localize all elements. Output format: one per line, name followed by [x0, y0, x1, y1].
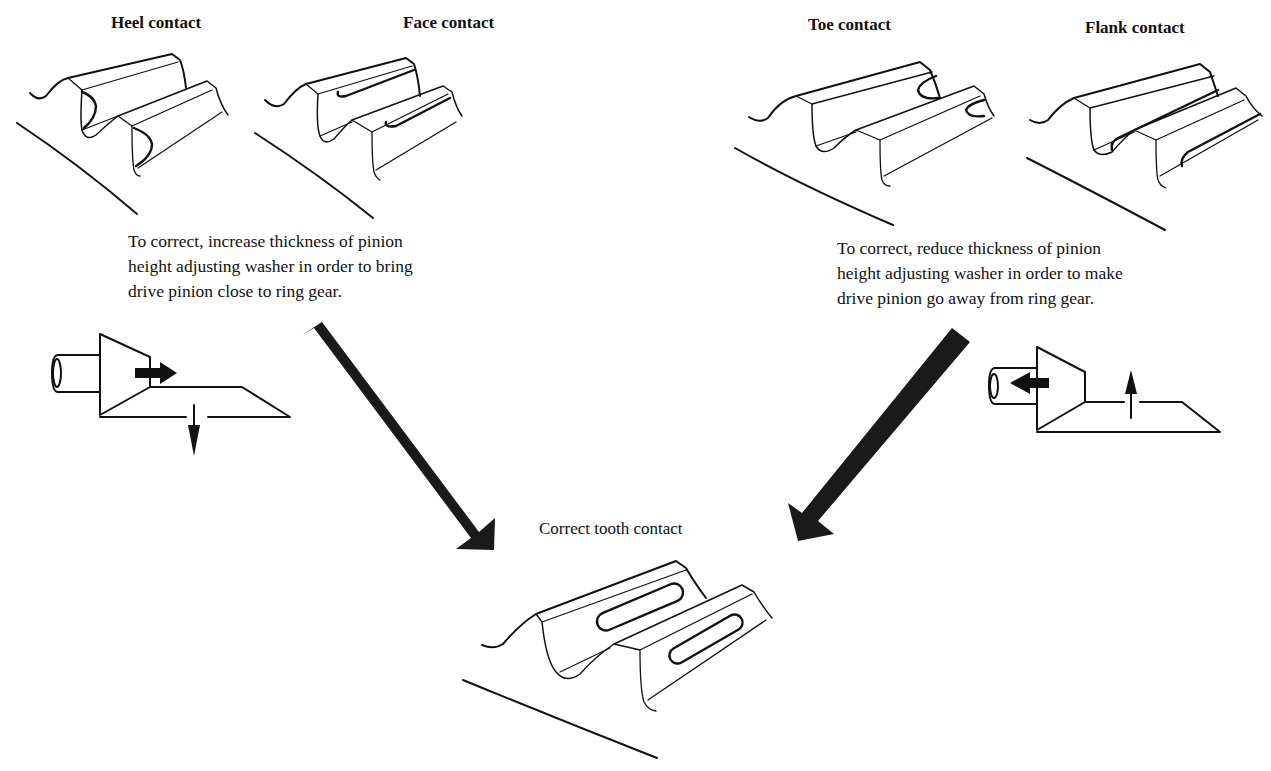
- flow-arrow-left-icon: [302, 322, 495, 550]
- arrow-down-icon: [188, 425, 200, 456]
- heel-contact-gear-icon: [17, 54, 228, 214]
- flank-contact-gear-icon: [1027, 64, 1262, 230]
- arrow-left-icon: [1010, 372, 1049, 394]
- contact-pattern-rear: [666, 612, 745, 667]
- toe-contact-gear-icon: [735, 62, 994, 225]
- flow-arrow-right-icon: [788, 328, 970, 541]
- diagram-artwork: [0, 0, 1271, 771]
- arrow-right-icon: [135, 362, 177, 384]
- contact-pattern-front: [594, 581, 686, 634]
- arrow-up-icon: [1125, 370, 1137, 394]
- left-pinion-adjustment-diagram: [52, 334, 290, 456]
- right-pinion-adjustment-diagram: [989, 347, 1220, 432]
- correct-tooth-contact-gear-icon: [463, 561, 772, 758]
- face-contact-gear-icon: [255, 58, 462, 218]
